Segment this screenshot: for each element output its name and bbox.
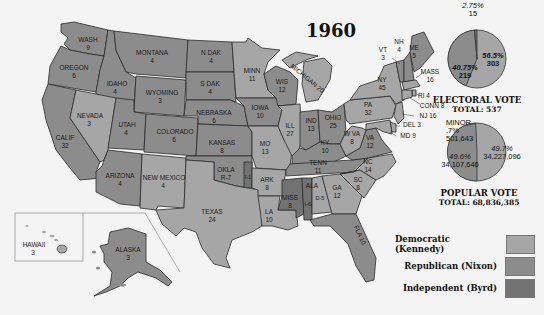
svg-text:3: 3 <box>87 120 91 127</box>
svg-text:8: 8 <box>220 147 224 154</box>
electoral-total: TOTAL: 537 <box>420 105 534 115</box>
svg-text:IDAHO: IDAHO <box>107 80 128 87</box>
popular-democratic-votes: 34,227,096 <box>476 153 528 161</box>
legend-label-independent: Independent (Byrd) <box>403 283 497 293</box>
svg-text:CALIF: CALIF <box>56 134 74 141</box>
svg-text:MASS: MASS <box>421 68 440 75</box>
state-ri[interactable] <box>412 90 416 96</box>
legend-item-republican: Republican (Nixon) <box>395 255 535 277</box>
svg-text:5: 5 <box>412 52 416 59</box>
svg-text:8: 8 <box>288 202 292 209</box>
svg-text:IOWA: IOWA <box>251 104 269 111</box>
svg-text:WASH: WASH <box>78 36 98 43</box>
svg-text:4: 4 <box>397 46 401 53</box>
svg-text:4: 4 <box>150 57 154 64</box>
svg-text:6: 6 <box>212 117 216 124</box>
electoral-democratic-label: 56.5% 303 <box>480 52 506 68</box>
svg-text:OHIO: OHIO <box>325 114 342 121</box>
svg-text:GA: GA <box>332 184 342 191</box>
svg-text:S DAK: S DAK <box>200 80 220 87</box>
popular-minor-pct: MINOR .7% <box>446 119 480 135</box>
svg-text:ME: ME <box>409 44 419 51</box>
svg-text:I-6: I-6 <box>305 201 311 207</box>
svg-text:MO: MO <box>260 140 270 147</box>
svg-text:NEW MEXICO: NEW MEXICO <box>143 174 186 181</box>
legend-swatch-republican <box>505 257 535 276</box>
svg-text:32: 32 <box>61 142 69 149</box>
svg-text:8: 8 <box>265 184 269 191</box>
svg-text:12: 12 <box>366 142 374 149</box>
svg-text:10: 10 <box>265 216 273 223</box>
svg-text:11: 11 <box>249 75 256 82</box>
svg-text:MONTANA: MONTANA <box>136 49 169 56</box>
svg-text:COLORADO: COLORADO <box>156 128 193 135</box>
legend-item-independent: Independent (Byrd) <box>395 277 535 299</box>
svg-text:N DAK: N DAK <box>201 49 222 56</box>
svg-text:6: 6 <box>172 136 176 143</box>
svg-text:4: 4 <box>161 182 165 189</box>
svg-text:D-5: D-5 <box>316 195 325 201</box>
svg-text:NC: NC <box>363 158 373 165</box>
svg-text:KY: KY <box>321 139 330 146</box>
state-fla[interactable] <box>310 214 376 282</box>
popular-republican-label: 49.6% 34,107,646 <box>440 153 480 169</box>
legend-label-republican: Republican (Nixon) <box>404 261 497 271</box>
svg-text:TEXAS: TEXAS <box>201 208 223 215</box>
state-colorado[interactable] <box>144 114 198 156</box>
svg-text:10: 10 <box>256 112 264 119</box>
svg-text:12: 12 <box>278 86 286 93</box>
svg-text:27: 27 <box>286 130 294 137</box>
svg-text:4: 4 <box>118 180 122 187</box>
svg-text:13: 13 <box>261 148 269 155</box>
svg-text:4: 4 <box>209 57 213 64</box>
popular-minor-votes: 501,643 <box>446 135 480 143</box>
svg-text:I-1: I-1 <box>245 174 251 180</box>
state-ny[interactable] <box>350 62 404 104</box>
svg-text:W VA: W VA <box>344 130 361 137</box>
svg-text:3: 3 <box>126 254 130 261</box>
svg-text:24: 24 <box>208 216 216 223</box>
svg-text:ALASKA: ALASKA <box>115 246 141 253</box>
svg-text:ARK: ARK <box>260 176 274 183</box>
legend-item-democratic: Democratic (Kennedy) <box>395 233 535 255</box>
svg-text:HAWAII: HAWAII <box>23 241 46 248</box>
svg-text:4: 4 <box>208 88 212 95</box>
svg-text:MISS: MISS <box>282 194 299 201</box>
popular-caption-title: POPULAR VOTE <box>420 188 538 198</box>
svg-text:9: 9 <box>86 44 90 51</box>
svg-text:16: 16 <box>426 76 434 83</box>
svg-text:14: 14 <box>364 166 372 173</box>
svg-text:VT: VT <box>379 46 387 53</box>
popular-total: TOTAL: 68,836,385 <box>420 198 538 208</box>
svg-text:6: 6 <box>72 72 76 79</box>
svg-text:8: 8 <box>350 138 354 145</box>
legend-swatch-democratic <box>506 235 535 254</box>
electoral-republican-label: 40.75% 219 <box>450 64 480 80</box>
electoral-caption: ELECTORAL VOTE TOTAL: 537 <box>420 95 534 115</box>
svg-text:12: 12 <box>333 192 341 199</box>
electoral-republican-votes: 219 <box>450 72 480 80</box>
svg-text:PA: PA <box>364 101 373 108</box>
state-mass[interactable] <box>402 80 420 90</box>
state-n-dak[interactable] <box>186 40 234 72</box>
svg-text:13: 13 <box>307 125 315 132</box>
svg-text:OKLA: OKLA <box>217 166 235 173</box>
electoral-caption-title: ELECTORAL VOTE <box>420 95 534 105</box>
svg-text:MINN: MINN <box>244 67 261 74</box>
svg-text:4: 4 <box>113 88 117 95</box>
svg-text:3: 3 <box>381 54 385 61</box>
svg-text:ILL: ILL <box>285 122 294 129</box>
svg-text:4: 4 <box>124 129 128 136</box>
state-s-dak[interactable] <box>186 72 236 102</box>
hawaii-inset-frame <box>15 213 83 261</box>
svg-text:NY: NY <box>377 76 387 83</box>
popular-minor-label: MINOR .7% 501,643 <box>446 119 480 143</box>
state-wyoming[interactable] <box>134 76 186 116</box>
popular-democratic-label: 49.7% 34,227,096 <box>476 145 528 161</box>
svg-text:NEVADA: NEVADA <box>77 112 104 119</box>
svg-text:8: 8 <box>356 184 360 191</box>
legend: Democratic (Kennedy) Republican (Nixon) … <box>395 233 535 299</box>
map-title: 1960 <box>306 20 356 41</box>
legend-swatch-independent <box>505 279 535 298</box>
svg-text:SC: SC <box>353 176 362 183</box>
